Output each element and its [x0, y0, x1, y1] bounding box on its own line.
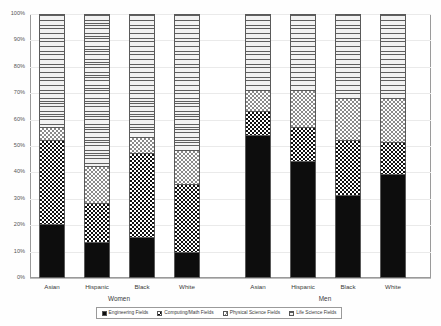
bar-women-white — [174, 14, 200, 278]
y-tick-label: 80% — [14, 64, 25, 70]
bar-men-white — [380, 14, 406, 278]
x-tick-label: White — [368, 284, 418, 290]
bar-segment — [130, 154, 154, 238]
y-tick-label: 30% — [14, 196, 25, 202]
bar-segment — [291, 162, 315, 277]
bar-segment — [85, 243, 109, 277]
legend-swatch-icon — [289, 311, 294, 316]
gridline — [30, 278, 431, 279]
x-tick-label: Hispanic — [278, 284, 328, 290]
legend-item[interactable]: Computing/Math Fields — [157, 311, 213, 316]
bar-segment — [130, 238, 154, 277]
y-tick-label: 50% — [14, 143, 25, 149]
chart-legend: Engineering FieldsComputing/Math FieldsP… — [96, 307, 342, 319]
bar-segment — [40, 15, 64, 128]
bar-segment — [246, 136, 270, 277]
y-tick-label: 0% — [17, 275, 25, 281]
bar-segment — [175, 151, 199, 185]
bar-segment — [291, 91, 315, 128]
bar-segment — [291, 15, 315, 91]
legend-label: Physical Science Fields — [230, 311, 280, 316]
bar-segment — [381, 143, 405, 174]
bar-women-hispanic — [84, 14, 110, 278]
bar-segment — [246, 91, 270, 112]
y-tick-label: 60% — [14, 117, 25, 123]
bar-segment — [85, 167, 109, 204]
legend-item[interactable]: Physical Science Fields — [223, 311, 280, 316]
x-group-label-women: Women — [89, 296, 149, 302]
legend-label: Computing/Math Fields — [164, 311, 213, 316]
plot-area — [30, 14, 431, 278]
bar-segment — [336, 141, 360, 196]
y-tick-label: 90% — [14, 37, 25, 43]
bar-segment — [40, 141, 64, 225]
x-tick-label: Asian — [27, 284, 77, 290]
y-tick-label: 20% — [14, 222, 25, 228]
bar-segment — [175, 253, 199, 277]
bar-segment — [381, 99, 405, 144]
bar-segment — [175, 15, 199, 151]
bar-segment — [175, 185, 199, 253]
bar-segment — [130, 138, 154, 154]
x-tick-label: Black — [117, 284, 167, 290]
bar-men-black — [335, 14, 361, 278]
bar-segment — [85, 204, 109, 243]
x-tick-label: White — [162, 284, 212, 290]
y-tick-label: 100% — [11, 11, 25, 17]
x-tick-label: Asian — [233, 284, 283, 290]
y-axis: 100%90%80%70%60%50%40%30%20%10%0% — [0, 14, 28, 278]
legend-swatch-icon — [223, 311, 228, 316]
legend-item[interactable]: Life Science Fields — [289, 311, 336, 316]
x-tick-label: Black — [323, 284, 373, 290]
bar-segment — [336, 15, 360, 99]
legend-item[interactable]: Engineering Fields — [102, 311, 149, 316]
x-tick-label: Hispanic — [72, 284, 122, 290]
bar-segment — [336, 99, 360, 141]
bar-segment — [246, 15, 270, 91]
legend-label: Engineering Fields — [109, 311, 149, 316]
bar-men-asian — [245, 14, 271, 278]
bar-segment — [40, 128, 64, 141]
bar-men-hispanic — [290, 14, 316, 278]
y-tick-label: 70% — [14, 90, 25, 96]
legend-label: Life Science Fields — [296, 311, 336, 316]
y-tick-label: 10% — [14, 249, 25, 255]
bar-segment — [381, 175, 405, 277]
y-tick-label: 40% — [14, 169, 25, 175]
bar-segment — [381, 15, 405, 99]
bar-segment — [246, 112, 270, 136]
legend-swatch-icon — [102, 311, 107, 316]
bar-women-asian — [39, 14, 65, 278]
bar-segment — [85, 15, 109, 167]
bar-segment — [40, 225, 64, 277]
bar-women-black — [129, 14, 155, 278]
bar-segment — [130, 15, 154, 138]
x-group-label-men: Men — [295, 296, 355, 302]
legend-swatch-icon — [157, 311, 162, 316]
bar-segment — [291, 128, 315, 162]
bar-segment — [336, 196, 360, 277]
stacked-bar-chart: 100%90%80%70%60%50%40%30%20%10%0% AsianH… — [0, 0, 441, 326]
